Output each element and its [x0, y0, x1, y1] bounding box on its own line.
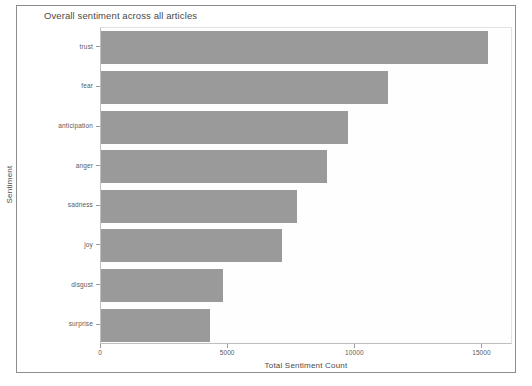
bar-anticipation: [101, 111, 513, 144]
x-axis-ticks: 050001000015000: [100, 344, 512, 362]
y-tick-label-joy: joy: [84, 239, 93, 251]
bar-fear: [101, 71, 513, 104]
bar-fill-sadness: [101, 190, 297, 223]
x-axis-title: Total Sentiment Count: [100, 361, 512, 370]
bar-fill-disgust: [101, 269, 223, 302]
x-tick-label-0: 0: [98, 349, 102, 356]
x-tick-label-5000: 5000: [220, 349, 235, 356]
y-tick-label-anticipation: anticipation: [58, 120, 93, 132]
x-tick-label-15000: 15000: [472, 349, 491, 356]
y-tick-label-fear: fear: [81, 80, 93, 92]
bar-trust: [101, 31, 513, 64]
x-tick-mark-0: [100, 344, 101, 348]
chart-title: Overall sentiment across all articles: [44, 10, 197, 21]
bar-joy: [101, 229, 513, 262]
bar-fill-fear: [101, 71, 388, 104]
x-tick-mark-15000: [481, 344, 482, 348]
chart-figure: Overall sentiment across all articles Se…: [0, 0, 532, 386]
x-tick-label-10000: 10000: [345, 349, 364, 356]
bar-sadness: [101, 190, 513, 223]
bar-surprise: [101, 309, 513, 342]
y-tick-label-trust: trust: [80, 41, 93, 53]
bar-anger: [101, 150, 513, 183]
bar-fill-anticipation: [101, 111, 348, 144]
y-tick-label-disgust: disgust: [71, 279, 93, 291]
x-tick-mark-5000: [227, 344, 228, 348]
bar-fill-anger: [101, 150, 327, 183]
y-tick-label-anger: anger: [76, 160, 93, 172]
y-tick-label-sadness: sadness: [68, 199, 93, 211]
plot-area: [100, 27, 512, 344]
bar-fill-surprise: [101, 309, 210, 342]
y-tick-label-surprise: surprise: [69, 318, 93, 330]
y-axis-ticks: trustfearanticipationangersadnessjoydisg…: [0, 27, 100, 344]
x-tick-mark-10000: [354, 344, 355, 348]
bar-fill-trust: [101, 31, 488, 64]
bar-disgust: [101, 269, 513, 302]
bar-series: [101, 28, 511, 343]
bar-fill-joy: [101, 229, 282, 262]
